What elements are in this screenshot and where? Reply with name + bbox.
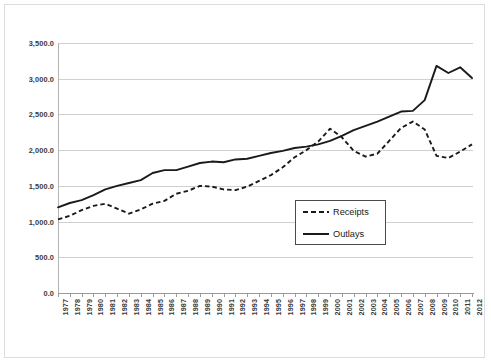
x-axis-tick-mark — [188, 293, 189, 297]
legend-swatch-dashed-icon — [302, 207, 330, 217]
x-axis-tick-label: 1992 — [238, 299, 247, 315]
x-axis-tick-label: 1997 — [298, 299, 307, 315]
x-axis-tick-mark — [342, 293, 343, 297]
x-axis-tick-label: 1988 — [191, 299, 200, 315]
x-axis-tick-label: 1984 — [144, 299, 153, 315]
x-axis-tick-label: 1999 — [321, 299, 330, 315]
y-axis-tick-label: 1,000.0 — [29, 217, 54, 226]
legend-label-receipts: Receipts — [333, 207, 369, 217]
x-axis-tick-mark — [117, 293, 118, 297]
x-axis-line — [58, 293, 474, 294]
chart-legend: Receipts Outlays — [295, 200, 386, 245]
x-axis-tick-label: 2000 — [333, 299, 342, 315]
y-axis-tick-label: 500.0 — [35, 253, 54, 262]
x-axis-tick-mark — [247, 293, 248, 297]
x-axis-tick-label: 1980 — [96, 299, 105, 315]
y-axis-tick-label: 2,000.0 — [29, 146, 54, 155]
x-axis-tick-label: 1990 — [215, 299, 224, 315]
x-axis-tick-mark — [105, 293, 106, 297]
x-axis-tick-mark — [224, 293, 225, 297]
x-axis-tick-mark — [448, 293, 449, 297]
data-series-layer — [58, 43, 473, 293]
x-axis-tick-label: 1994 — [262, 299, 271, 315]
y-axis-tick-label: 3,000.0 — [29, 74, 54, 83]
x-axis-tick-mark — [153, 293, 154, 297]
x-axis-tick-label: 1982 — [120, 299, 129, 315]
x-axis-tick-label: 1983 — [132, 299, 141, 315]
x-axis-tick-label: 1991 — [227, 299, 236, 315]
x-axis-tick-label: 1989 — [203, 299, 212, 315]
x-axis-tick-mark — [366, 293, 367, 297]
x-axis-tick-label: 1993 — [250, 299, 259, 315]
legend-swatch-solid-icon — [302, 229, 330, 239]
x-axis-tick-label: 1977 — [61, 299, 70, 315]
x-axis-tick-mark — [235, 293, 236, 297]
x-axis-tick-mark — [377, 293, 378, 297]
x-axis-tick-label: 2011 — [463, 299, 472, 315]
x-axis-tick-mark — [354, 293, 355, 297]
x-axis-tick-mark — [318, 293, 319, 297]
x-axis-tick-label: 2010 — [451, 299, 460, 315]
x-axis-tick-mark — [401, 293, 402, 297]
x-axis-tick-label: 2008 — [428, 299, 437, 315]
x-axis-tick-label: 1981 — [108, 299, 117, 315]
x-axis-tick-label: 1985 — [156, 299, 165, 315]
x-axis-tick-label: 1995 — [274, 299, 283, 315]
x-axis-tick-label: 1987 — [179, 299, 188, 315]
x-axis-tick-label: 2002 — [357, 299, 366, 315]
y-axis-tick-label: 1,500.0 — [29, 181, 54, 190]
x-axis-tick-label: 2004 — [380, 299, 389, 315]
x-axis-tick-mark — [164, 293, 165, 297]
x-axis-tick-mark — [425, 293, 426, 297]
x-axis-tick-mark — [93, 293, 94, 297]
x-axis-tick-mark — [295, 293, 296, 297]
x-axis-tick-label: 1986 — [167, 299, 176, 315]
x-axis-tick-label: 1998 — [309, 299, 318, 315]
y-axis-tick-label: 0.0 — [43, 289, 54, 298]
x-axis-tick-mark — [200, 293, 201, 297]
x-axis-tick-mark — [259, 293, 260, 297]
x-axis-tick-label: 1996 — [286, 299, 295, 315]
series-line-receipts — [58, 122, 472, 220]
x-axis-tick-mark — [472, 293, 473, 297]
legend-label-outlays: Outlays — [333, 229, 364, 239]
x-axis-tick-mark — [58, 293, 59, 297]
x-axis-tick-label: 2005 — [392, 299, 401, 315]
x-axis-tick-mark — [330, 293, 331, 297]
legend-item-receipts: Receipts — [302, 201, 369, 223]
x-axis-tick-mark — [141, 293, 142, 297]
x-axis-tick-mark — [389, 293, 390, 297]
x-axis-tick-mark — [176, 293, 177, 297]
y-axis-tick-label: 2,500.0 — [29, 110, 54, 119]
x-axis-tick-mark — [460, 293, 461, 297]
x-axis-tick-mark — [70, 293, 71, 297]
x-axis-tick-label: 2006 — [404, 299, 413, 315]
series-line-outlays — [58, 66, 472, 207]
x-axis-tick-mark — [212, 293, 213, 297]
legend-item-outlays: Outlays — [302, 223, 364, 245]
x-axis-tick-mark — [283, 293, 284, 297]
y-axis-tick-labels: 3,500.03,000.02,500.02,000.01,500.01,000… — [0, 0, 54, 364]
x-axis-tick-label: 1978 — [73, 299, 82, 315]
x-axis-tick-label: 2003 — [369, 299, 378, 315]
x-axis-tick-mark — [306, 293, 307, 297]
x-axis-tick-label: 1979 — [85, 299, 94, 315]
y-axis-tick-label: 3,500.0 — [29, 39, 54, 48]
x-axis-tick-mark — [82, 293, 83, 297]
x-axis-tick-mark — [413, 293, 414, 297]
chart-container: 3,500.03,000.02,500.02,000.01,500.01,000… — [0, 0, 491, 364]
x-axis-tick-label: 2012 — [475, 299, 484, 315]
x-axis-tick-mark — [271, 293, 272, 297]
x-axis-tick-label: 2001 — [345, 299, 354, 315]
x-axis-tick-label: 2007 — [416, 299, 425, 315]
x-axis-tick-label: 2009 — [440, 299, 449, 315]
x-axis-tick-mark — [129, 293, 130, 297]
x-axis-tick-mark — [437, 293, 438, 297]
